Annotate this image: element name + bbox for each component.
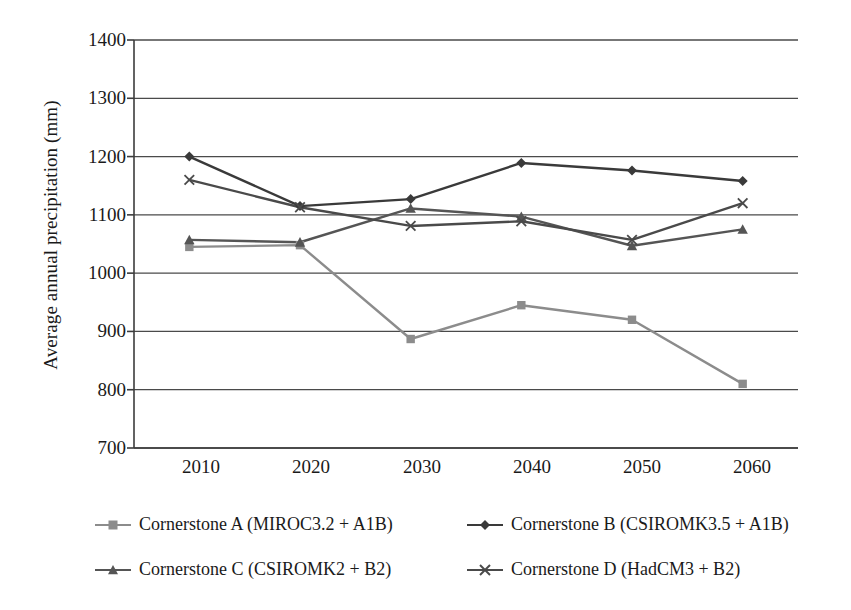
legend-item-cornerstone-d[interactable]: Cornerstone D (HadCM3 + B2) — [467, 559, 795, 580]
legend-marker-triangle-icon — [95, 562, 131, 578]
chart-legend: Cornerstone A (MIROC3.2 + A1B) Cornersto… — [95, 502, 795, 592]
series-line — [189, 157, 742, 207]
data-point-marker — [627, 166, 637, 176]
data-point-marker — [406, 335, 414, 343]
legend-marker-shape — [95, 562, 131, 578]
legend-item-cornerstone-c[interactable]: Cornerstone C (CSIROMK2 + B2) — [95, 559, 467, 580]
data-point-marker — [406, 194, 416, 204]
legend-marker-part — [108, 565, 118, 574]
legend-marker-cross-x-icon — [467, 562, 503, 578]
legend-marker-part — [480, 520, 490, 530]
x-tick-label: 2020 — [266, 456, 356, 478]
series-line — [189, 208, 742, 245]
precipitation-line-chart: Average annual precipitation (mm) 1400 1… — [0, 0, 851, 610]
data-point-marker — [738, 380, 746, 388]
legend-marker-shape — [95, 517, 131, 533]
legend-label: Cornerstone A (MIROC3.2 + A1B) — [139, 514, 393, 535]
legend-marker-shape — [467, 517, 503, 533]
legend-item-cornerstone-a[interactable]: Cornerstone A (MIROC3.2 + A1B) — [95, 514, 467, 535]
legend-label: Cornerstone B (CSIROMK3.5 + A1B) — [511, 514, 789, 535]
x-tick-label: 2040 — [487, 456, 577, 478]
data-point-marker — [738, 176, 748, 186]
data-point-marker — [628, 316, 636, 324]
x-tick-label: 2060 — [707, 456, 797, 478]
legend-item-cornerstone-b[interactable]: Cornerstone B (CSIROMK3.5 + A1B) — [467, 514, 795, 535]
x-tick-label: 2050 — [597, 456, 687, 478]
series-line — [189, 245, 742, 384]
data-point-marker — [516, 158, 526, 168]
x-tick-label: 2010 — [156, 456, 246, 478]
data-point-marker — [184, 152, 194, 162]
data-point-marker — [517, 301, 525, 309]
legend-marker-square-icon — [95, 517, 131, 533]
legend-marker-part — [109, 520, 118, 529]
legend-marker-shape — [467, 562, 503, 578]
legend-marker-diamond-icon — [467, 517, 503, 533]
x-tick-label: 2030 — [377, 456, 467, 478]
legend-label: Cornerstone D (HadCM3 + B2) — [511, 559, 740, 580]
legend-label: Cornerstone C (CSIROMK2 + B2) — [139, 559, 391, 580]
series-line — [189, 180, 742, 240]
